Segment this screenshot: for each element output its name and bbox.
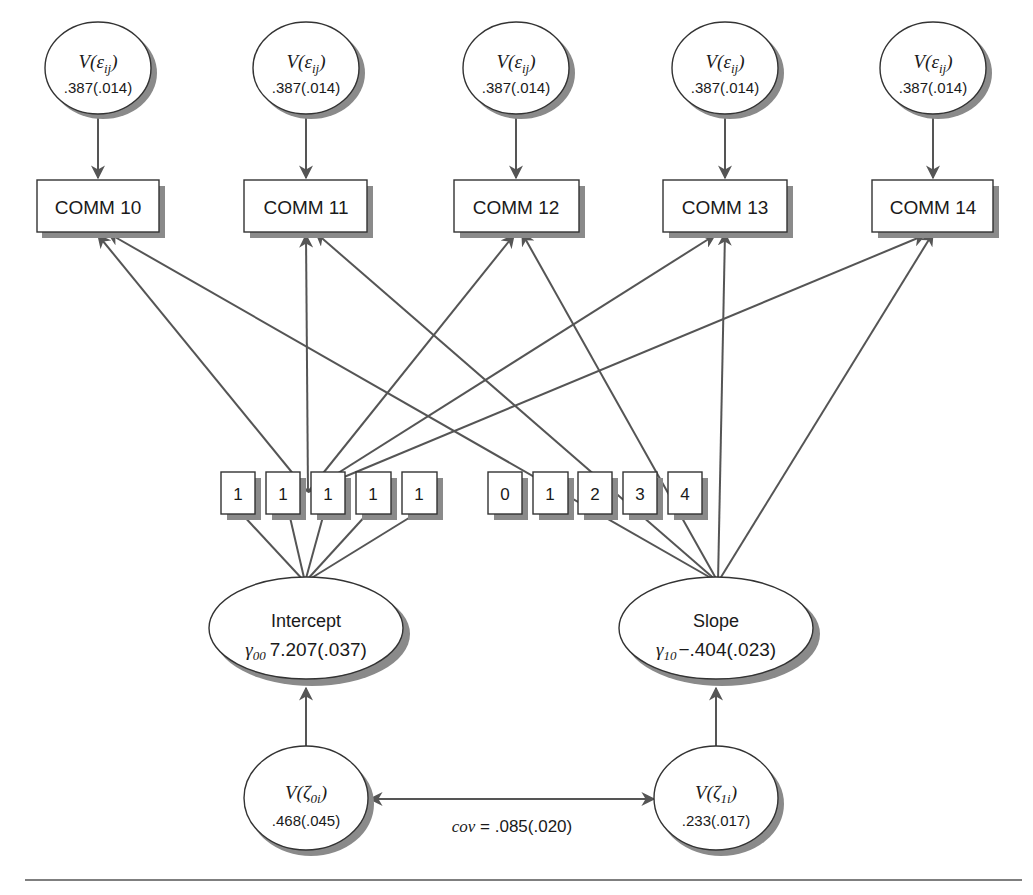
loading-box: 1: [311, 472, 351, 520]
intercept-node: Intercept γ007.207(.037): [209, 577, 410, 686]
residual-node: V(εij) .387(.014): [880, 22, 992, 119]
residual-node: V(εij) .387(.014): [672, 22, 784, 119]
loading-box: 1: [533, 472, 574, 520]
svg-text:1: 1: [414, 485, 423, 504]
svg-text:.387(.014): .387(.014): [64, 79, 132, 96]
intercept-variance-node: V(ζ0i) .468(.045): [244, 746, 374, 856]
loading-box: 1: [266, 472, 306, 520]
svg-text:3: 3: [635, 485, 644, 504]
covariance-label: cov = .085(.020): [452, 817, 572, 836]
observed-node-comm12: COMM 12: [454, 180, 585, 238]
residual-arrows: [98, 115, 933, 178]
slope-loading-paths: [108, 233, 933, 582]
slope-loading-boxes: 0 1 2 3 4: [488, 472, 708, 520]
svg-text:4: 4: [680, 485, 689, 504]
svg-text:Intercept: Intercept: [271, 611, 341, 631]
observed-node-comm10: COMM 10: [37, 180, 165, 238]
loading-box: 1: [221, 472, 261, 520]
svg-text:.387(.014): .387(.014): [482, 79, 550, 96]
svg-text:COMM 13: COMM 13: [682, 197, 769, 218]
svg-text:.387(.014): .387(.014): [272, 79, 340, 96]
svg-text:.233(.017): .233(.017): [682, 812, 750, 829]
svg-text:V(ζ1i): V(ζ1i): [695, 782, 737, 806]
observed-node-comm11: COMM 11: [244, 180, 373, 238]
loading-box: 4: [668, 472, 708, 520]
loading-box: 1: [356, 472, 397, 520]
residual-nodes: V(εij) .387(.014) V(εij) .387(.014) V(εi…: [45, 22, 992, 119]
svg-text:COMM 14: COMM 14: [890, 197, 977, 218]
observed-node-comm13: COMM 13: [663, 180, 793, 238]
svg-text:1: 1: [368, 485, 377, 504]
svg-text:COMM 11: COMM 11: [263, 197, 348, 218]
svg-text:1: 1: [278, 485, 287, 504]
intercept-loading-paths: [98, 235, 925, 492]
residual-node: V(εij) .387(.014): [45, 22, 157, 119]
svg-text:1: 1: [545, 485, 554, 504]
svg-text:1: 1: [233, 485, 242, 504]
svg-text:.387(.014): .387(.014): [899, 79, 967, 96]
loading-box: 0: [488, 472, 528, 520]
slope-node: Slope γ10−.404(.023): [619, 577, 820, 686]
svg-text:1: 1: [323, 485, 332, 504]
svg-text:2: 2: [590, 485, 599, 504]
intercept-loading-boxes: 1 1 1 1 1: [221, 472, 443, 520]
svg-text:.387(.014): .387(.014): [691, 79, 759, 96]
slope-variance-node: V(ζ1i) .233(.017): [654, 746, 784, 856]
svg-text:0: 0: [500, 485, 509, 504]
residual-node: V(εij) .387(.014): [253, 22, 365, 119]
svg-text:.468(.045): .468(.045): [272, 812, 340, 829]
residual-node: V(εij) .387(.014): [463, 22, 575, 119]
svg-text:COMM 12: COMM 12: [473, 197, 560, 218]
observed-node-comm14: COMM 14: [872, 180, 999, 238]
svg-text:COMM 10: COMM 10: [55, 197, 142, 218]
svg-text:Slope: Slope: [693, 611, 739, 631]
svg-text:V(ζ0i): V(ζ0i): [285, 782, 327, 806]
loading-box: 1: [402, 472, 443, 520]
loading-box: 3: [623, 472, 663, 520]
observed-nodes: COMM 10 COMM 11 COMM 12 COMM 13 COMM 14: [37, 180, 999, 238]
growth-model-diagram: V(εij) .387(.014) V(εij) .387(.014) V(εi…: [0, 0, 1033, 895]
intercept-lower-lines: [241, 513, 417, 582]
loading-box: 2: [578, 472, 618, 520]
